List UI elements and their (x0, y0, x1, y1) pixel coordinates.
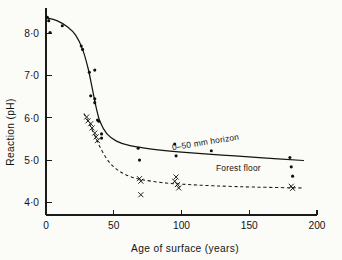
data-point-cross (290, 186, 295, 191)
label-horizon: 0–50 mm horizon (171, 132, 240, 152)
data-point-dot (100, 137, 103, 140)
axes-group (46, 8, 317, 216)
data-point-cross (174, 174, 179, 179)
data-point-dot (210, 149, 213, 152)
data-point-cross (94, 134, 99, 139)
chart-canvas: 4·05·06·07·08·0 050100150200 0–50 mm hor… (0, 0, 342, 260)
data-point-dot (93, 101, 96, 104)
data-point-dot (47, 19, 50, 22)
data-point-dot (137, 147, 140, 150)
figure-container: 4·05·06·07·08·0 050100150200 0–50 mm hor… (0, 0, 342, 260)
y-tick-label: 4·0 (24, 197, 39, 208)
x-tick-label: 50 (108, 220, 120, 231)
x-axis-ticks: 050100150200 (43, 210, 326, 232)
data-point-dot (93, 69, 96, 72)
series-curves (46, 18, 303, 188)
x-tick-label: 200 (309, 220, 326, 231)
data-point-dot (291, 175, 294, 178)
y-axis-ticks: 4·05·06·07·08·0 (24, 28, 51, 208)
y-tick-label: 5·0 (24, 155, 39, 166)
x-tick-label: 100 (173, 220, 190, 231)
x-axis-title: Age of surface (years) (131, 243, 239, 254)
data-point-dot (88, 71, 91, 74)
x-tick-label: 0 (43, 220, 49, 231)
data-point-dot (138, 159, 141, 162)
y-tick-label: 6·0 (24, 113, 39, 124)
data-point-dot (46, 16, 49, 19)
series-curve-1 (46, 18, 303, 161)
y-axis-title: Reaction (pH) (5, 98, 16, 165)
data-point-dot (80, 44, 83, 47)
data-point-dot (288, 156, 291, 159)
series-curve-2 (84, 114, 304, 188)
data-point-cross (138, 192, 143, 197)
data-point-dot (49, 31, 52, 34)
data-point-dot (290, 165, 293, 168)
data-point-dot (81, 48, 84, 51)
data-point-dot (97, 120, 100, 123)
label-forest-floor: Forest floor (216, 163, 261, 173)
data-point-dot (93, 97, 96, 100)
data-point-dot (100, 132, 103, 135)
y-tick-label: 7·0 (24, 70, 39, 81)
data-point-dot (175, 154, 178, 157)
data-point-dot (89, 94, 92, 97)
x-tick-label: 150 (241, 220, 258, 231)
y-tick-label: 8·0 (24, 28, 39, 39)
data-point-dot (61, 24, 64, 27)
